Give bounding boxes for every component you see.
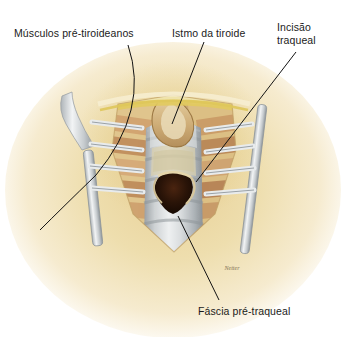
label-tracheal-incision-line2: traqueal <box>277 34 316 46</box>
leader-muscles <box>40 45 134 230</box>
leader-lines <box>0 0 347 337</box>
leader-isthmus <box>172 42 204 124</box>
label-pre-thyroid-muscles: Músculos pré-tiroideanos <box>14 27 134 40</box>
leader-fascia <box>178 216 219 300</box>
medical-illustration-figure: Netter Músculos pré-tiroideanos Istmo da… <box>0 0 347 337</box>
leader-incision <box>196 52 296 182</box>
label-tracheal-incision: Incisãotraqueal <box>277 21 316 46</box>
label-thyroid-isthmus: Istmo da tiroide <box>172 27 245 40</box>
label-pretracheal-fascia: Fáscia pré-traqueal <box>198 305 290 318</box>
label-tracheal-incision-line1: Incisão <box>277 21 311 33</box>
